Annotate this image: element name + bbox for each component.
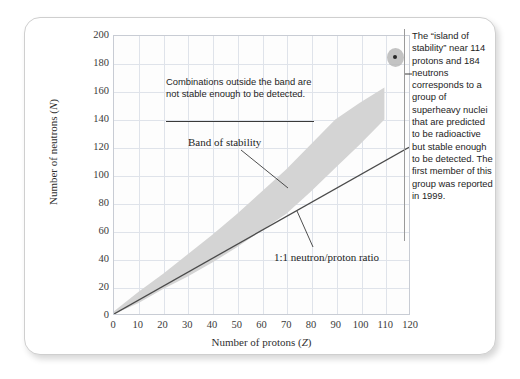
y-tick-label: 100: [69, 170, 109, 180]
note-combinations-outside: Combinations outside the band are not st…: [166, 76, 318, 101]
y-axis-symbol: N: [47, 103, 59, 110]
island-of-stability-marker: [387, 48, 404, 67]
y-tick-label: 160: [69, 86, 109, 96]
x-axis-tick-labels: 0102030405060708090100110120: [113, 319, 410, 333]
y-axis-title-text: Number of neutrons (: [47, 110, 59, 205]
y-tick-label: 20: [69, 282, 109, 292]
note-island-of-stability: The “island of stability” near 114 proto…: [412, 30, 494, 202]
y-tick-label: 80: [69, 198, 109, 208]
stability-band-chart: 020406080100120140160180200 010203040506…: [25, 18, 497, 356]
y-tick-label: 60: [69, 226, 109, 236]
y-tick-label: 180: [69, 58, 109, 68]
y-tick-label: 40: [69, 254, 109, 264]
figure-card: 020406080100120140160180200 010203040506…: [24, 17, 496, 355]
x-axis-title-close: ): [308, 336, 312, 348]
x-axis-title-text: Number of protons (: [212, 336, 302, 348]
y-tick-label: 200: [69, 30, 109, 40]
y-axis-title-close: ): [47, 99, 59, 103]
y-tick-label: 140: [69, 114, 109, 124]
screenshot-root: 020406080100120140160180200 010203040506…: [0, 0, 520, 379]
y-tick-label: 120: [69, 142, 109, 152]
label-band-of-stability: Band of stability: [188, 136, 261, 148]
x-tick-label: 120: [395, 319, 425, 330]
y-axis-title: Number of neutrons (N): [47, 52, 59, 252]
label-ratio: 1:1 neutron/proton ratio: [274, 251, 379, 263]
marker-dot-icon: [393, 55, 397, 59]
side-note-divider: [404, 29, 405, 241]
y-axis-tick-labels: 020406080100120140160180200: [65, 35, 109, 315]
note-underline-rule: [166, 121, 314, 122]
x-axis-title: Number of protons (Z): [113, 336, 410, 348]
